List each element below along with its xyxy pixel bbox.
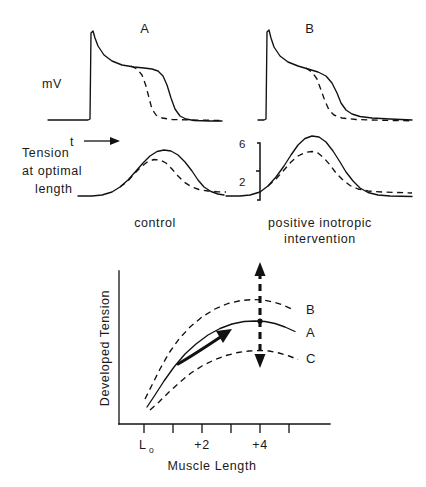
twitch-a-solid (78, 150, 224, 196)
caption-control: control (134, 216, 176, 230)
curve-label-b: B (306, 302, 315, 317)
tension-scale-bar (256, 143, 260, 200)
mv-axis-label: mV (42, 77, 62, 91)
time-axis-label: t (70, 135, 74, 149)
action-potential-b-dashed (306, 68, 412, 121)
tension-label-line3: length (35, 182, 73, 196)
lower-chart-x-title: Muscle Length (167, 459, 256, 473)
figure-root: A B mV t Tension at optimal length 6 2 c… (0, 0, 426, 487)
xtick-label-plus4: +4 (252, 438, 267, 452)
panel-b-label: B (305, 21, 314, 36)
length-tension-curve-c (150, 351, 298, 411)
panel-a-label: A (140, 21, 149, 36)
length-tension-curve-b (145, 300, 293, 400)
curve-label-c: C (306, 351, 316, 366)
caption-intervention-line2: intervention (284, 232, 356, 246)
action-potential-a-solid (48, 31, 222, 121)
xtick-label-L-subscript: o (149, 445, 154, 455)
time-arrow-icon (84, 137, 120, 145)
tension-scale-label-2: 2 (239, 176, 246, 188)
tension-label-line1: Tension (22, 146, 69, 160)
tension-scale-label-6: 6 (239, 138, 246, 150)
inotropic-state-arrow-icon (255, 262, 266, 368)
xtick-label-plus2: +2 (194, 438, 209, 452)
action-potential-b-solid (258, 30, 412, 120)
curve-label-a: A (306, 325, 315, 340)
action-potential-a-dashed (131, 66, 222, 121)
scientific-figure-svg: A B mV t Tension at optimal length 6 2 c… (0, 0, 426, 487)
tension-label-line2: at optimal (22, 164, 82, 178)
twitch-b-solid (226, 136, 412, 197)
twitch-a-dashed (120, 160, 226, 193)
xtick-label-L: L (139, 438, 147, 452)
caption-intervention-line1: positive inotropic (268, 216, 372, 230)
lower-chart-y-title: Developed Tension (98, 290, 112, 406)
length-dependent-activation-arrow-icon (178, 329, 232, 364)
lower-chart-x-ticks (144, 424, 289, 433)
lower-chart-x-tick-label-l0: L o (139, 438, 154, 455)
